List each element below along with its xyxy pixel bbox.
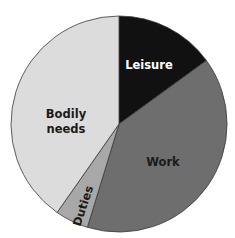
label-work: Work [146,155,180,169]
pie-chart: Leisure Work Bodily needs Duties [0,0,235,238]
label-bodily-needs-line2: needs [47,122,86,136]
label-leisure: Leisure [125,58,173,72]
label-bodily-needs-line1: Bodily [46,107,87,121]
